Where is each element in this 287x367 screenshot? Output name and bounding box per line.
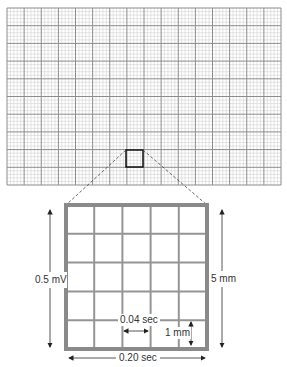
small-height-label: 1 mm: [164, 327, 191, 339]
height-label: 5 mm: [211, 271, 236, 287]
large-time-label: 0.20 sec: [116, 352, 160, 364]
voltage-label: 0.5 mV: [35, 272, 67, 288]
ecg-paper-grid: [7, 8, 281, 185]
small-time-label: 0.04 sec: [118, 314, 160, 326]
ecg-diagram: [0, 0, 287, 367]
